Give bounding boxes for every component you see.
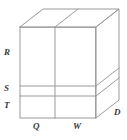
side-horizontal-divider-lower (96, 78, 119, 96)
label-Q: Q (33, 122, 40, 131)
side-horizontal-divider-upper (96, 68, 119, 86)
label-W: W (73, 122, 81, 131)
rectangular-prism-drawing (0, 0, 127, 140)
front-face (20, 27, 96, 118)
label-T: T (4, 101, 10, 110)
top-face (20, 9, 119, 27)
top-face-divider (55, 9, 78, 27)
label-R: R (4, 48, 10, 57)
label-S: S (4, 84, 9, 93)
geometry-figure: R S T Q W D (0, 0, 127, 140)
right-side-face (96, 9, 119, 118)
label-D: D (114, 108, 121, 117)
